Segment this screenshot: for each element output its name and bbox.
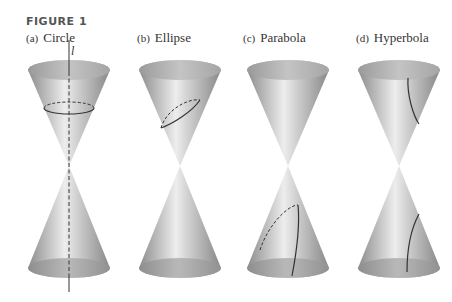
cone-ellipse bbox=[139, 60, 221, 278]
cone-hyperbola bbox=[358, 60, 440, 278]
conic-sections-figure bbox=[0, 0, 452, 302]
cone-parabola bbox=[247, 60, 329, 278]
cone-circle bbox=[28, 40, 110, 292]
